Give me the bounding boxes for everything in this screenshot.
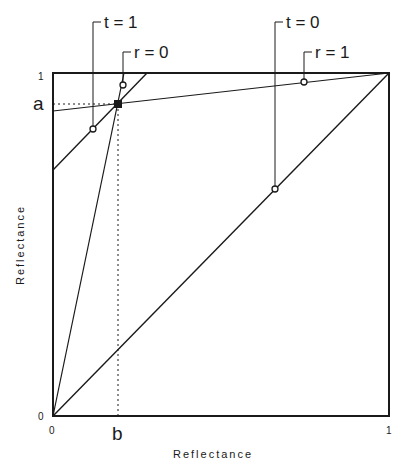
point-t1-marker (90, 126, 96, 132)
steep-line-r0 (53, 73, 124, 416)
leader-t0 (275, 22, 283, 189)
y-marker-a: a (33, 93, 44, 114)
diagonal-line-t0 (53, 73, 389, 416)
x-axis-title: Reflectance (173, 448, 253, 460)
line-t1 (53, 73, 147, 170)
line-r1 (53, 73, 389, 111)
leader-r0 (123, 52, 131, 85)
label-t1: t = 1 (104, 13, 138, 32)
label-r0: r = 0 (134, 43, 169, 62)
x-marker-b: b (112, 423, 123, 444)
intersection-marker (114, 100, 122, 108)
x-tick-0: 0 (49, 425, 55, 436)
leader-r1 (304, 52, 312, 82)
point-r0-marker (120, 82, 126, 88)
label-t0: t = 0 (286, 13, 320, 32)
point-r1-marker (301, 79, 307, 85)
point-t0-marker (272, 186, 278, 192)
reflectance-diagram: t = 1 r = 0 t = 0 r = 1 a b 1 0 0 1 Refl… (0, 0, 406, 472)
y-tick-0: 0 (38, 411, 44, 422)
leader-t1 (93, 22, 101, 129)
label-r1: r = 1 (315, 43, 350, 62)
x-tick-1: 1 (386, 425, 392, 436)
y-axis-title: Reflectance (14, 205, 26, 285)
y-tick-1: 1 (38, 71, 44, 82)
